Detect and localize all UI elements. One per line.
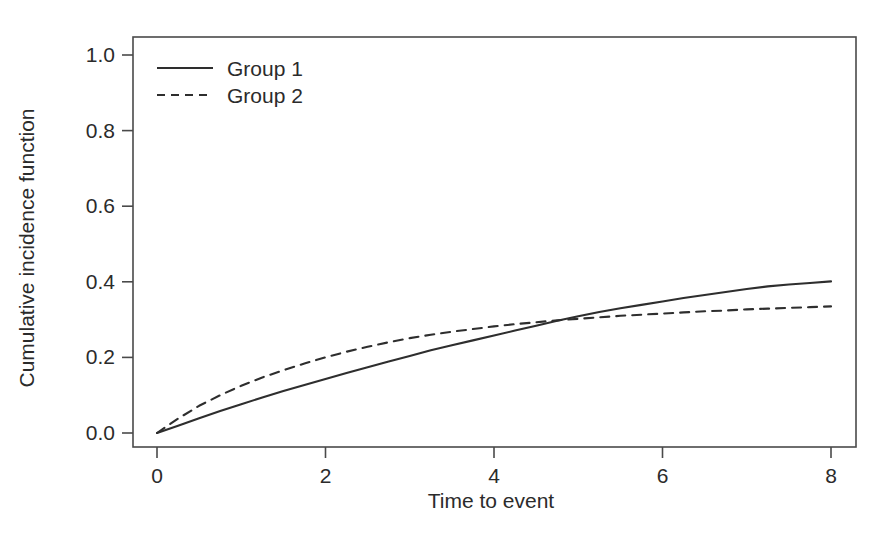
y-tick-label: 1.0 (86, 43, 115, 66)
y-tick-label: 0.0 (86, 421, 115, 444)
x-axis-title: Time to event (428, 489, 555, 512)
x-tick-label: 8 (825, 464, 837, 487)
legend-label: Group 1 (227, 57, 303, 80)
x-tick-label: 4 (488, 464, 500, 487)
x-tick-label: 2 (320, 464, 332, 487)
y-tick-label: 0.6 (86, 194, 115, 217)
figure-background (0, 0, 894, 534)
legend-label: Group 2 (227, 84, 303, 107)
y-tick-label: 0.2 (86, 345, 115, 368)
y-axis-title: Cumulative incidence function (15, 109, 38, 388)
x-tick-label: 6 (657, 464, 669, 487)
y-tick-label: 0.8 (86, 119, 115, 142)
x-tick-label: 0 (151, 464, 163, 487)
y-tick-label: 0.4 (86, 270, 116, 293)
figure-container: 0.00.20.40.60.81.0 02468 Group 1Group 2 … (0, 0, 894, 534)
cumulative-incidence-chart: 0.00.20.40.60.81.0 02468 Group 1Group 2 … (0, 0, 894, 534)
